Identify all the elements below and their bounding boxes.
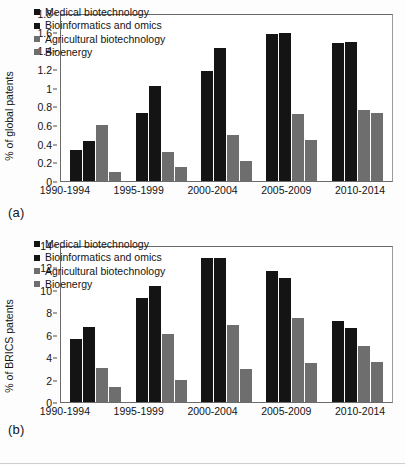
y-tick-label: 1 <box>46 83 52 95</box>
x-tick-label: 2010-2014 <box>323 184 397 196</box>
y-tick-mark <box>53 358 57 359</box>
bar <box>279 278 291 402</box>
bar <box>240 161 252 181</box>
x-tick-label: 2000-2004 <box>176 405 250 417</box>
y-tick-mark <box>53 313 57 314</box>
legend-label: Bioinformatics and omics <box>45 19 162 31</box>
x-tick-label: 2005-2009 <box>249 405 323 417</box>
bar <box>240 369 252 402</box>
y-axis-label-b-text: % of BRICS patents <box>3 299 15 392</box>
y-tick-mark <box>53 163 57 164</box>
x-tick-label: 1995-1999 <box>102 184 176 196</box>
y-tick-label: 6 <box>46 330 52 342</box>
bar <box>109 387 121 403</box>
legend-swatch-icon <box>34 281 40 287</box>
bar <box>292 114 304 181</box>
plot-wrap-a: 1.81.61.41.210.80.60.40.20 1990-19941995… <box>26 0 399 232</box>
y-tick-label: 2 <box>46 375 52 387</box>
x-labels-a: 1990-19941995-19992000-20042005-20092010… <box>26 184 399 196</box>
bar <box>162 152 174 182</box>
bar <box>175 380 187 402</box>
bar <box>70 150 82 181</box>
bar <box>149 286 161 402</box>
y-tick-mark <box>53 335 57 336</box>
bar <box>279 33 291 181</box>
bar-group <box>259 247 324 402</box>
bar <box>96 368 108 402</box>
x-tick-label: 2005-2009 <box>249 184 323 196</box>
bar <box>162 334 174 402</box>
bar-group <box>259 15 324 181</box>
x-tick-label: 1990-1994 <box>28 184 102 196</box>
x-tick-label: 2010-2014 <box>323 405 397 417</box>
y-tick-mark <box>53 144 57 145</box>
bar <box>83 141 95 181</box>
y-tick-label: 1.2 <box>37 64 52 76</box>
bar <box>305 363 317 402</box>
bar-group <box>325 15 390 181</box>
y-tick-label: 0.4 <box>37 139 52 151</box>
x-tick-label: 1990-1994 <box>28 405 102 417</box>
bar <box>371 113 383 181</box>
chart-panel-b: (b) % of BRICS patents 14121086420 1990-… <box>0 232 405 460</box>
legend-swatch-icon <box>34 241 40 247</box>
y-tick-mark <box>53 380 57 381</box>
y-tick-label: 0.6 <box>37 120 52 132</box>
legend-item: Bioinformatics and omics <box>34 251 165 263</box>
y-tick-mark <box>53 403 57 404</box>
y-axis-label-a: % of global patents <box>0 0 20 232</box>
legend-label: Medical biotechnology <box>45 6 149 18</box>
bar <box>214 258 226 402</box>
legend-swatch-icon <box>34 255 40 261</box>
bar <box>358 346 370 402</box>
y-tick-label: 0.2 <box>37 157 52 169</box>
legend-swatch-icon <box>34 9 40 15</box>
legend-item: Agricultural biotechnology <box>34 33 165 45</box>
bar <box>136 113 148 181</box>
bar <box>345 328 357 402</box>
legend-label: Bioenergy <box>45 46 92 58</box>
bar <box>332 43 344 181</box>
legend-item: Agricultural biotechnology <box>34 265 165 277</box>
x-tick-label: 2000-2004 <box>176 184 250 196</box>
legend-label: Agricultural biotechnology <box>45 265 165 277</box>
bar <box>201 258 213 402</box>
bar <box>149 86 161 181</box>
bar <box>332 321 344 402</box>
bar-group <box>194 15 259 181</box>
legend-label: Agricultural biotechnology <box>45 33 165 45</box>
bar <box>305 140 317 182</box>
y-tick-label: 0.8 <box>37 101 52 113</box>
legend-a: Medical biotechnologyBioinformatics and … <box>34 6 165 59</box>
y-tick-mark <box>53 107 57 108</box>
bar-group <box>325 247 390 402</box>
legend-label: Bioenergy <box>45 278 92 290</box>
bar <box>70 339 82 402</box>
bar <box>214 48 226 181</box>
bar <box>175 167 187 181</box>
legend-swatch-icon <box>34 36 40 42</box>
footer-rule <box>0 463 405 464</box>
bar <box>266 271 278 402</box>
bar <box>109 172 121 181</box>
bar <box>201 71 213 181</box>
bar <box>96 125 108 181</box>
bar <box>292 318 304 402</box>
legend-item: Bioenergy <box>34 278 165 290</box>
bar <box>266 34 278 181</box>
legend-label: Bioinformatics and omics <box>45 251 162 263</box>
legend-item: Medical biotechnology <box>34 238 165 250</box>
legend-item: Bioenergy <box>34 46 165 58</box>
legend-swatch-icon <box>34 23 40 29</box>
bar <box>371 362 383 402</box>
legend-swatch-icon <box>34 49 40 55</box>
legend-item: Medical biotechnology <box>34 6 165 18</box>
bar-group <box>194 247 259 402</box>
chart-panel-a: (a) % of global patents 1.81.61.41.210.8… <box>0 0 405 232</box>
y-tick-mark <box>53 88 57 89</box>
y-axis-label-b: % of BRICS patents <box>0 232 20 460</box>
bar <box>136 298 148 402</box>
y-tick-label: 4 <box>46 352 52 364</box>
y-tick-mark <box>53 182 57 183</box>
y-tick-mark <box>53 126 57 127</box>
